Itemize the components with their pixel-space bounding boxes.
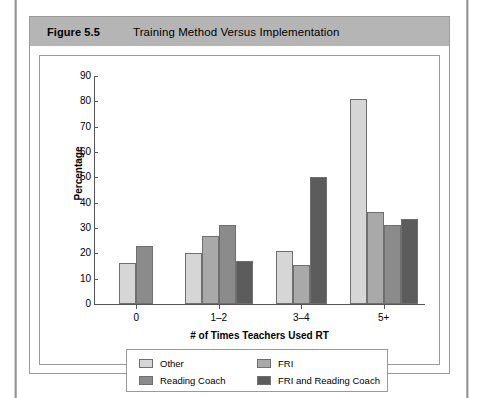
legend-label-reading-coach: Reading Coach xyxy=(160,375,226,386)
x-tick-label: 1–2 xyxy=(184,312,254,323)
bar xyxy=(219,225,236,304)
bar xyxy=(293,265,310,304)
legend-swatch-reading-coach xyxy=(139,376,153,385)
y-tick-label: 0 xyxy=(79,298,91,309)
bar xyxy=(384,225,401,304)
legend-item-fri-and-reading-coach: FRI and Reading Coach xyxy=(257,375,380,386)
figure-header: Figure 5.5 Training Method Versus Implem… xyxy=(30,17,449,46)
y-tick-label: 40 xyxy=(79,197,91,208)
figure-page: Figure 5.5 Training Method Versus Implem… xyxy=(0,0,484,398)
page-rule-left xyxy=(14,0,17,398)
x-tick-label: 5+ xyxy=(349,312,419,323)
x-axis-line xyxy=(94,304,425,305)
bar xyxy=(310,177,327,304)
plot-frame: Percentage 0102030405060708090 01–23–45+… xyxy=(39,55,440,365)
x-tick-label: 0 xyxy=(101,312,171,323)
y-tick-label: 60 xyxy=(79,146,91,157)
bar xyxy=(136,246,153,304)
legend-label-other: Other xyxy=(160,358,184,369)
figure-title: Training Method Versus Implementation xyxy=(133,26,340,38)
legend-swatch-other xyxy=(139,359,153,368)
bar-group xyxy=(119,76,153,304)
legend-swatch-fri-and-reading-coach xyxy=(257,376,271,385)
legend-item-other: Other xyxy=(139,358,257,369)
y-tick-label: 20 xyxy=(79,247,91,258)
x-tick-mark xyxy=(136,304,137,309)
bar xyxy=(367,212,384,304)
x-tick-mark xyxy=(301,304,302,309)
figure-number: Figure 5.5 xyxy=(47,26,100,38)
bar xyxy=(185,253,202,304)
y-tick-mark xyxy=(94,304,98,305)
figure-card: Figure 5.5 Training Method Versus Implem… xyxy=(29,16,450,374)
y-tick-label: 10 xyxy=(79,273,91,284)
bar-group xyxy=(350,76,418,304)
bar xyxy=(236,261,253,304)
legend-row-2: Reading Coach FRI and Reading Coach xyxy=(139,372,387,389)
x-tick-mark xyxy=(219,304,220,309)
x-tick-label: 3–4 xyxy=(266,312,336,323)
y-tick-label: 50 xyxy=(79,171,91,182)
bar-chart: Percentage 0102030405060708090 01–23–45+… xyxy=(40,56,439,364)
bar xyxy=(202,236,219,304)
y-tick-label: 30 xyxy=(79,222,91,233)
y-tick-label: 90 xyxy=(79,70,91,81)
bar xyxy=(119,263,136,304)
y-tick-label: 80 xyxy=(79,95,91,106)
legend-label-fri-and-reading-coach: FRI and Reading Coach xyxy=(278,375,380,386)
legend-label-fri: FRI xyxy=(278,358,293,369)
bar-group xyxy=(276,76,327,304)
legend-swatch-fri xyxy=(257,359,271,368)
chart-legend: Other FRI Reading Coach FRI and Reading … xyxy=(126,349,388,392)
y-tick-label: 70 xyxy=(79,121,91,132)
bar-groups xyxy=(95,76,425,304)
x-tick-mark xyxy=(384,304,385,309)
bar xyxy=(350,99,367,304)
bar xyxy=(401,219,418,304)
page-rule-right xyxy=(466,0,469,398)
legend-row-1: Other FRI xyxy=(139,355,387,372)
bar xyxy=(276,251,293,304)
legend-item-fri: FRI xyxy=(257,358,293,369)
legend-item-reading-coach: Reading Coach xyxy=(139,375,257,386)
bar-group xyxy=(185,76,253,304)
x-axis-title: # of Times Teachers Used RT xyxy=(94,330,425,341)
